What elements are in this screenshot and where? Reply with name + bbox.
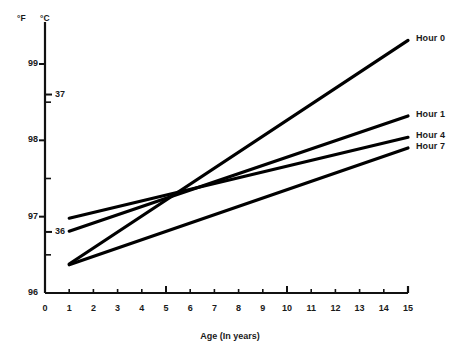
y-tick-label-f-96: 96: [10, 288, 38, 297]
y-tick-label-c-36: 36: [55, 227, 65, 236]
series-label-hour-7: Hour 7: [416, 142, 445, 151]
x-tick-label-1: 1: [59, 304, 79, 313]
x-tick-label-13: 13: [350, 304, 370, 313]
series-label-hour-1: Hour 1: [416, 110, 445, 119]
series-label-hour-0: Hour 0: [416, 34, 445, 43]
x-tick-label-12: 12: [325, 304, 345, 313]
series-label-hour-4: Hour 4: [416, 131, 445, 140]
line-chart-plot: [0, 0, 456, 353]
series-layer: [69, 40, 408, 264]
x-tick-label-14: 14: [374, 304, 394, 313]
y-tick-label-c-37: 37: [55, 90, 65, 99]
x-tick-label-8: 8: [229, 304, 249, 313]
x-tick-label-4: 4: [132, 304, 152, 313]
x-tick-label-10: 10: [277, 304, 297, 313]
y-tick-label-f-99: 99: [10, 59, 38, 68]
y-tick-label-f-97: 97: [10, 212, 38, 221]
x-tick-label-3: 3: [108, 304, 128, 313]
series-line-hour-1: [69, 116, 408, 231]
y-axis-unit-celsius: °C: [40, 14, 50, 23]
y-tick-label-f-98: 98: [10, 135, 38, 144]
x-tick-label-2: 2: [83, 304, 103, 313]
x-tick-label-11: 11: [301, 304, 321, 313]
x-axis-title: Age (In years): [175, 332, 285, 341]
x-tick-label-6: 6: [180, 304, 200, 313]
series-line-hour-0: [69, 40, 408, 264]
y-axis-unit-fahrenheit: °F: [17, 14, 26, 23]
x-tick-label-15: 15: [398, 304, 418, 313]
axis-layer: [45, 22, 408, 293]
x-tick-label-0: 0: [35, 304, 55, 313]
x-tick-label-7: 7: [204, 304, 224, 313]
x-tick-label-5: 5: [156, 304, 176, 313]
x-tick-label-9: 9: [253, 304, 273, 313]
chart-container: °F °C Age (In years) 96979899 3637 01234…: [0, 0, 456, 353]
